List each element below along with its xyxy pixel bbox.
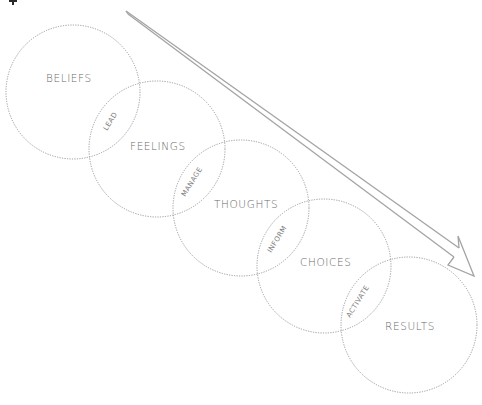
cropped-text-fragment [9, 0, 17, 5]
arrow-shaft-lower [128, 14, 454, 257]
link-label-manage: MANAGE [180, 166, 204, 198]
link-label-inform: INFORM [266, 224, 289, 254]
link-label-activate: ACTIVATE [345, 284, 371, 319]
stage-label-thoughts: THOUGHTS [214, 198, 278, 210]
link-label-lead: LEAD [102, 111, 119, 132]
arrow-shaft-upper [126, 11, 459, 248]
stage-label-choices: CHOICES [300, 256, 351, 268]
stage-label-results: RESULTS [385, 320, 435, 332]
stage-label-feelings: FEELINGS [130, 140, 186, 152]
flow-diagram: BELIEFS FEELINGS THOUGHTS CHOICES RESULT… [0, 0, 482, 405]
stage-label-beliefs: BELIEFS [46, 72, 92, 84]
